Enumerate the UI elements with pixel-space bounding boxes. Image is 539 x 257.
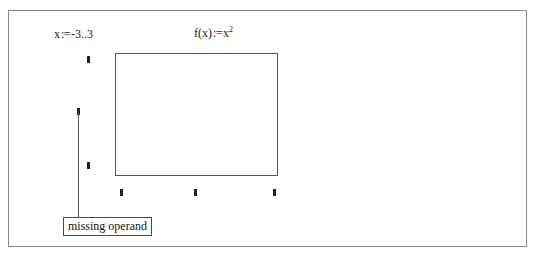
definition-operator: :=: [212, 26, 223, 40]
error-tooltip-message: missing operand: [68, 219, 147, 233]
function-signature: f(x): [194, 26, 212, 40]
y-axis-upper-placeholder[interactable]: [87, 56, 90, 63]
x-axis-expression-placeholder[interactable]: [194, 189, 197, 196]
x-axis-right-placeholder[interactable]: [273, 189, 276, 196]
range-start-value: -3: [71, 27, 81, 41]
x-axis-left-placeholder[interactable]: [120, 189, 123, 196]
error-tooltip: missing operand: [63, 217, 152, 236]
range-variable-expression[interactable]: x:=-3..3: [54, 27, 93, 41]
y-axis-lower-placeholder[interactable]: [87, 162, 90, 169]
function-body-exponent: 2: [229, 25, 233, 34]
range-end-value: 3: [87, 27, 93, 41]
error-leader-line: [78, 113, 79, 217]
definition-operator: :=: [60, 27, 71, 41]
mathcad-worksheet: x:=-3..3 f(x):=x2 missing operand: [8, 10, 527, 247]
xy-plot-frame[interactable]: [115, 53, 278, 176]
function-definition-expression[interactable]: f(x):=x2: [194, 26, 233, 40]
